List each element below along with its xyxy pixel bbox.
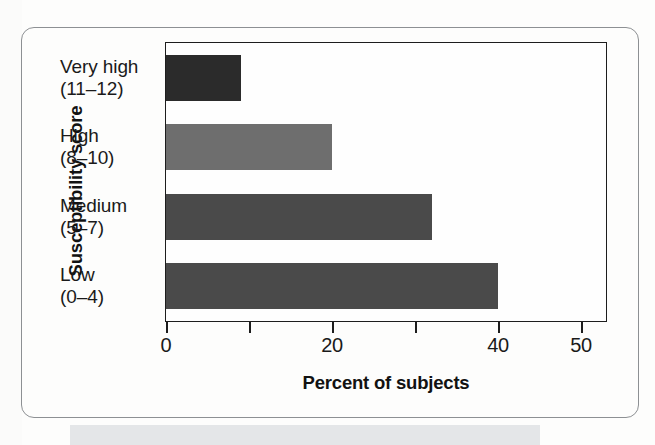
x-tick-50 bbox=[581, 322, 583, 333]
x-axis-tick-labels: 0204050 bbox=[165, 334, 607, 362]
bar-row-high bbox=[166, 113, 606, 183]
x-axis-title: Percent of subjects bbox=[165, 372, 607, 394]
horizontal-bar-chart: Susceptibility score Very high (11–12) H… bbox=[0, 0, 655, 445]
bar-medium bbox=[166, 194, 432, 240]
x-tick-0 bbox=[166, 322, 168, 333]
y-axis-category-labels: Very high (11–12) High (8–10) Medium (5–… bbox=[60, 43, 160, 321]
bar-row-medium bbox=[166, 182, 606, 252]
bars-layer bbox=[166, 43, 606, 321]
x-tick-label-50: 50 bbox=[570, 334, 592, 357]
y-tick-label-high-name: High bbox=[60, 125, 99, 147]
y-tick-label-low: Low (0–4) bbox=[60, 252, 160, 322]
bar-row-low bbox=[166, 252, 606, 322]
x-tick-label-0: 0 bbox=[161, 334, 172, 357]
x-tick-40 bbox=[498, 322, 500, 333]
y-tick-label-medium-name: Medium bbox=[60, 195, 127, 217]
bar-very-high bbox=[166, 55, 241, 101]
y-tick-label-very-high-range: (11–12) bbox=[60, 78, 123, 100]
y-tick-label-medium: Medium (5–7) bbox=[60, 182, 160, 252]
y-tick-label-high: High (8–10) bbox=[60, 113, 160, 183]
x-tick-30 bbox=[415, 322, 417, 333]
scanned-page: Susceptibility score Very high (11–12) H… bbox=[0, 0, 655, 445]
bar-low bbox=[166, 263, 498, 309]
y-tick-label-medium-range: (5–7) bbox=[60, 217, 104, 239]
bar-row-very-high bbox=[166, 43, 606, 113]
y-tick-label-very-high: Very high (11–12) bbox=[60, 43, 160, 113]
x-tick-label-20: 20 bbox=[321, 334, 343, 357]
x-tick-20 bbox=[332, 322, 334, 333]
bar-high bbox=[166, 124, 332, 170]
y-tick-label-low-name: Low bbox=[60, 264, 95, 286]
x-tick-10 bbox=[249, 322, 251, 333]
y-tick-label-high-range: (8–10) bbox=[60, 147, 114, 169]
x-axis-ticks bbox=[165, 322, 607, 334]
x-tick-label-40: 40 bbox=[487, 334, 509, 357]
y-tick-label-very-high-name: Very high bbox=[60, 56, 138, 78]
y-tick-label-low-range: (0–4) bbox=[60, 286, 104, 308]
